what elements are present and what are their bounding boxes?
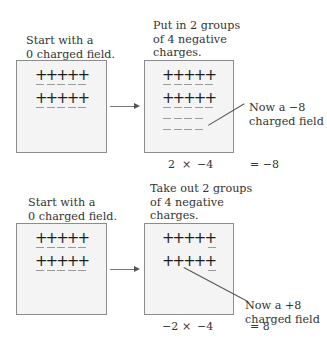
minus-charge — [174, 118, 182, 119]
added-minus-row — [163, 118, 205, 119]
minus-charge — [47, 107, 55, 108]
plus-charge: + — [194, 255, 205, 267]
minus-charge — [47, 270, 55, 271]
minus-charge — [57, 84, 65, 85]
eq-result-2: = 8 — [250, 320, 270, 333]
minus-charge — [57, 247, 65, 248]
action-caption-1: Put in 2 groups of 4 negative charges. — [153, 19, 240, 60]
plus-row: +++++ — [35, 92, 88, 104]
minus-charge — [208, 270, 216, 271]
added-minus-row — [163, 129, 205, 130]
plus-charge: + — [46, 232, 57, 244]
eq-factor-b-2: −4 — [197, 320, 213, 333]
plus-charge: + — [77, 92, 88, 104]
minus-charge — [163, 84, 171, 85]
minus-charge — [195, 107, 203, 108]
plus-charge: + — [35, 232, 46, 244]
plus-charge: + — [35, 92, 46, 104]
plus-row: +++++ — [35, 255, 88, 267]
remaining-minus — [208, 247, 219, 248]
eq-factor-b-1: −4 — [197, 158, 213, 171]
plus-charge: + — [194, 92, 205, 104]
plus-charge: + — [35, 255, 46, 267]
zero-field-box-1: +++++ +++++ — [16, 60, 107, 153]
minus-charge — [36, 107, 44, 108]
minus-charge — [47, 84, 55, 85]
plus-charge: + — [46, 255, 57, 267]
minus-row — [36, 247, 89, 248]
plus-charge: + — [173, 69, 184, 81]
minus-charge — [163, 118, 171, 119]
minus-row — [36, 270, 89, 271]
minus-charge — [174, 129, 182, 130]
minus-charge — [36, 270, 44, 271]
plus-row: +++++ — [162, 69, 215, 81]
minus-charge — [78, 247, 86, 248]
plus-row: +++++ — [162, 255, 215, 267]
plus-charge: + — [183, 69, 194, 81]
arrow-right-icon — [134, 103, 140, 109]
plus-row: +++++ — [35, 232, 88, 244]
plus-row: +++++ — [35, 69, 88, 81]
minus-charge — [195, 129, 203, 130]
minus-charge — [57, 270, 65, 271]
plus-charge: + — [46, 92, 57, 104]
plus-charge: + — [173, 92, 184, 104]
minus-charge — [184, 129, 192, 130]
remaining-minus — [208, 270, 219, 271]
plus-charge: + — [77, 232, 88, 244]
arrow-shaft — [110, 106, 134, 107]
arrow-right-icon — [134, 266, 140, 272]
plus-charge: + — [162, 69, 173, 81]
plus-charge: + — [204, 92, 215, 104]
minus-row — [163, 107, 216, 108]
minus-charge — [184, 84, 192, 85]
plus-charge: + — [183, 92, 194, 104]
plus-charge: + — [77, 69, 88, 81]
plus-charge: + — [194, 232, 205, 244]
minus-charge — [78, 270, 86, 271]
plus-charge: + — [67, 255, 78, 267]
plus-row: +++++ — [162, 232, 215, 244]
minus-charge — [68, 270, 76, 271]
plus-charge: + — [183, 232, 194, 244]
minus-charge — [68, 247, 76, 248]
plus-charge: + — [204, 69, 215, 81]
minus-charge — [47, 247, 55, 248]
minus-charge — [195, 118, 203, 119]
plus-charge: + — [183, 255, 194, 267]
minus-charge — [163, 129, 171, 130]
minus-charge — [205, 107, 213, 108]
plus-charge: + — [56, 232, 67, 244]
minus-charge — [184, 107, 192, 108]
minus-row — [163, 84, 216, 85]
plus-charge: + — [173, 232, 184, 244]
eq-factor-a-2: −2 — [162, 320, 178, 333]
plus-charge: + — [56, 255, 67, 267]
minus-charge — [163, 107, 171, 108]
plus-charge: + — [173, 255, 184, 267]
arrow-shaft — [110, 269, 134, 270]
annotation-1: Now a −8 charged field — [249, 101, 324, 128]
minus-charge — [36, 84, 44, 85]
eq-times-1: × — [182, 158, 191, 171]
eq-times-2: × — [182, 320, 191, 333]
minus-charge — [68, 84, 76, 85]
result-field-box-1: +++++ +++++ — [144, 60, 234, 153]
minus-row — [36, 84, 89, 85]
minus-charge — [57, 107, 65, 108]
plus-charge: + — [67, 232, 78, 244]
minus-charge — [68, 107, 76, 108]
plus-charge: + — [35, 69, 46, 81]
plus-charge: + — [46, 69, 57, 81]
minus-charge — [36, 247, 44, 248]
minus-row — [36, 107, 89, 108]
action-caption-2: Take out 2 groups of 4 negative charges. — [150, 182, 252, 223]
eq-factor-a-1: 2 — [168, 158, 175, 171]
plus-row: +++++ — [162, 92, 215, 104]
minus-charge — [78, 84, 86, 85]
minus-charge — [184, 118, 192, 119]
plus-charge: + — [67, 92, 78, 104]
minus-charge — [78, 107, 86, 108]
plus-charge: + — [162, 92, 173, 104]
